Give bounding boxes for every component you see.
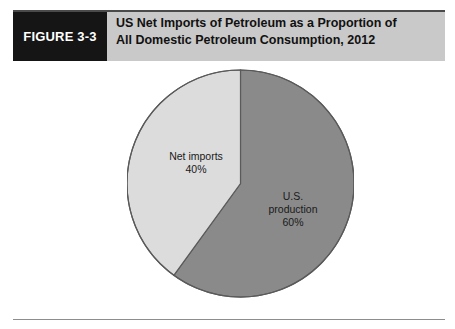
pie-label-net-imports-value: 40% bbox=[146, 163, 246, 176]
pie-label-us-production: U.S. production 60% bbox=[243, 190, 343, 229]
pie-label-net-imports-name: Net imports bbox=[146, 150, 246, 163]
pie-chart-svg bbox=[127, 67, 354, 300]
pie-label-net-imports: Net imports 40% bbox=[146, 150, 246, 176]
pie-label-us-production-name-1: U.S. bbox=[243, 190, 343, 203]
figure-footer-rule bbox=[13, 319, 445, 320]
figure-number-label: FIGURE 3-3 bbox=[23, 29, 97, 44]
figure-container: FIGURE 3-3 US Net Imports of Petroleum a… bbox=[0, 0, 455, 329]
pie-label-us-production-value: 60% bbox=[243, 216, 343, 229]
figure-title-line-1: US Net Imports of Petroleum as a Proport… bbox=[116, 15, 441, 32]
figure-title-line-2: All Domestic Petroleum Consumption, 2012 bbox=[116, 32, 441, 49]
pie-label-us-production-name-2: production bbox=[243, 203, 343, 216]
figure-title: US Net Imports of Petroleum as a Proport… bbox=[116, 15, 441, 48]
pie-chart: Net imports 40% U.S. production 60% bbox=[0, 61, 455, 306]
figure-number-badge: FIGURE 3-3 bbox=[13, 12, 107, 61]
